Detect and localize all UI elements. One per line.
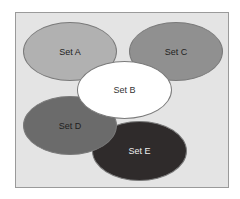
set-c-label: Set C: [165, 47, 188, 57]
set-b-label: Set B: [113, 85, 135, 95]
set-d-label: Set D: [59, 121, 82, 131]
set-b-ellipse: Set B: [77, 61, 172, 119]
set-a-label: Set A: [59, 47, 81, 57]
set-e-label: Set E: [128, 146, 150, 156]
